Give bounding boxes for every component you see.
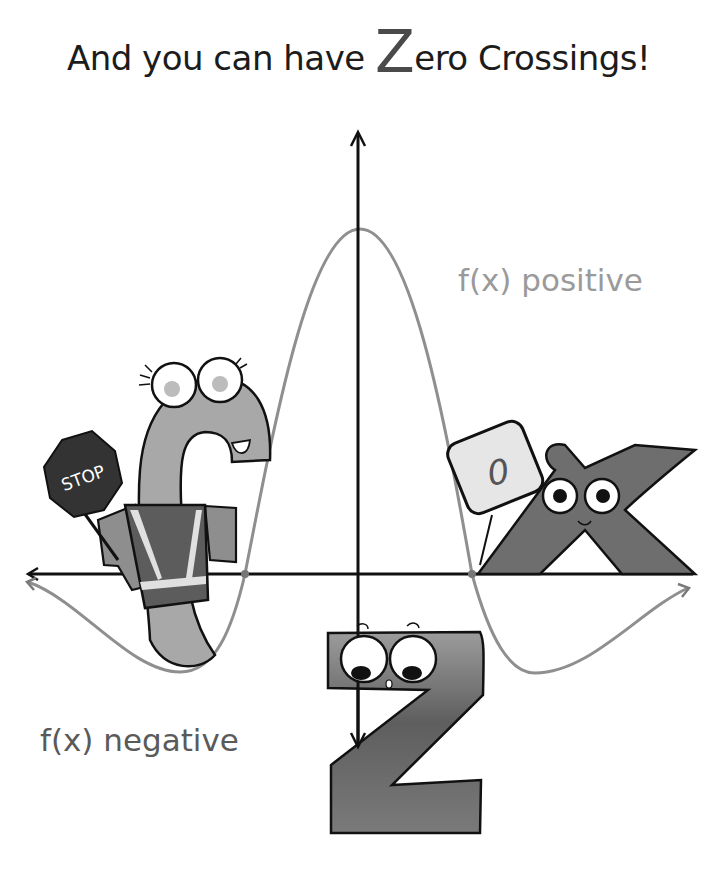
f-character: STOP xyxy=(44,358,270,666)
eyebrow-icon xyxy=(407,623,419,628)
z-character xyxy=(328,623,484,833)
label-f-negative: f(x) negative xyxy=(40,722,239,758)
zero-crossing-point-left xyxy=(241,570,249,578)
label-f-positive: f(x) positive xyxy=(458,262,643,298)
x-character: 0 xyxy=(444,418,695,574)
vest-right-sleeve xyxy=(205,506,236,562)
nose-icon xyxy=(386,680,392,688)
zero-crossing-point-right xyxy=(468,570,476,578)
eyelash-icon xyxy=(139,365,152,385)
